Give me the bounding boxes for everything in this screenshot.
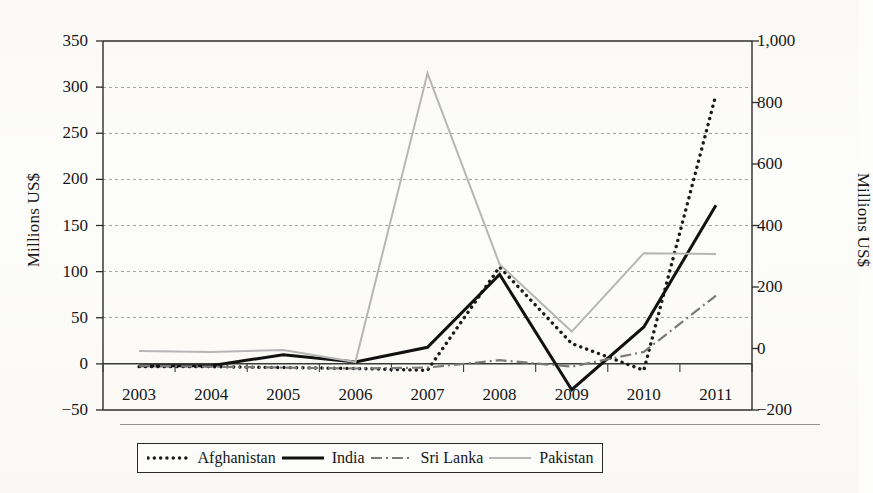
dash-dot-line-swatch [370,452,414,464]
legend-label: Afghanistan [198,449,276,467]
x-tick-label: 2010 [604,385,684,405]
legend-item-pakistan[interactable]: Pakistan [488,449,593,467]
chart-legend: AfghanistanIndiaSri LankaPakistan [137,443,603,473]
solid-line-swatch [281,452,325,464]
legend-label: Sri Lanka [421,449,484,467]
legend-label: India [332,449,365,467]
x-tick-label: 2007 [388,385,468,405]
light-line-swatch [488,452,532,464]
x-tick-label: 2006 [315,385,395,405]
figure-divider-rule [120,424,820,425]
x-tick-label: 2005 [243,385,323,405]
x-tick-label: 2004 [171,385,251,405]
legend-label: Pakistan [539,449,593,467]
x-tick-label: 2003 [99,385,179,405]
x-tick-label: 2011 [676,385,756,405]
legend-item-india[interactable]: India [281,449,365,467]
legend-item-afghanistan[interactable]: Afghanistan [147,449,276,467]
dotted-line-swatch [147,452,191,464]
x-tick-label: 2008 [460,385,540,405]
x-tick-label: 2009 [532,385,612,405]
legend-item-sri-lanka[interactable]: Sri Lanka [370,449,484,467]
